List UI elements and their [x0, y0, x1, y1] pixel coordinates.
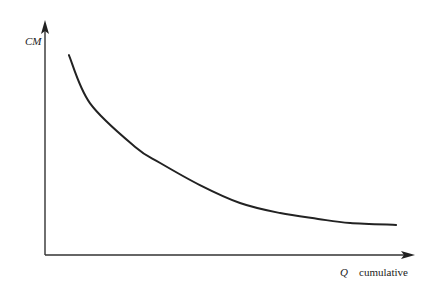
x-axis: [45, 251, 415, 259]
x-axis-label-text: cumulative: [359, 266, 408, 278]
y-axis: [41, 20, 49, 255]
chart: CM Q cumulative: [0, 0, 439, 294]
x-axis-label-symbol: Q: [340, 266, 348, 278]
y-axis-label: CM: [25, 35, 42, 47]
cm-curve: [69, 55, 396, 225]
